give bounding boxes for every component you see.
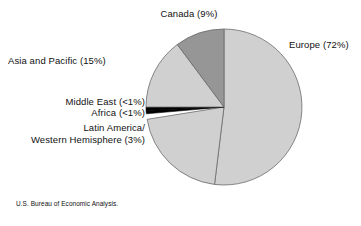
pie-slice-europe[interactable] — [215, 29, 302, 185]
pie-chart-figure: Canada (9%) Europe (72%) Asia and Pacifi… — [0, 0, 361, 226]
source-note: U.S. Bureau of Economic Analysis. — [16, 200, 118, 208]
pie-label-middle-east: Middle East (<1%) — [2, 96, 145, 108]
pie-label-latin-america-line1: Latin America/ — [2, 122, 145, 134]
pie-label-europe: Europe (72%) — [289, 39, 361, 51]
pie-label-canada: Canada (9%) — [134, 8, 244, 20]
pie-slice-latin-america-western-hemisphere[interactable] — [147, 107, 224, 184]
pie-label-asia-and-pacific: Asia and Pacific (15%) — [8, 55, 145, 67]
pie-label-latin-america-western-hemisphere: Latin America/ Western Hemisphere (3%) — [2, 122, 145, 145]
pie-label-latin-america-line2: Western Hemisphere (3%) — [2, 134, 145, 146]
pie-label-africa: Africa (<1%) — [2, 107, 145, 119]
